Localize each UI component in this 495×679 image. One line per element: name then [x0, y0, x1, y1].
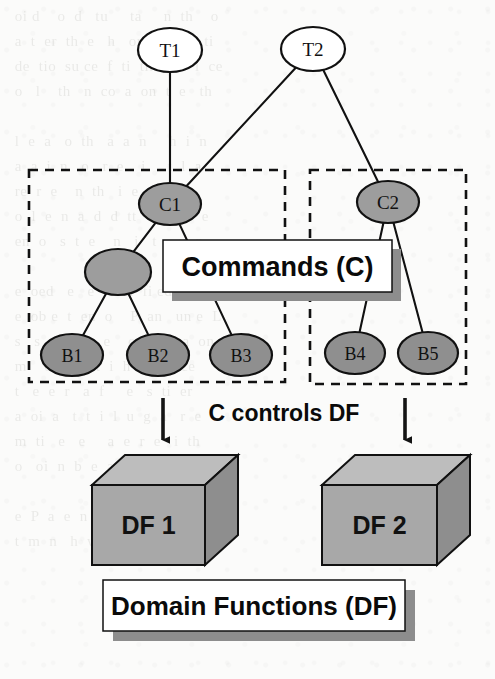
edge-t2-to-c2 — [323, 69, 379, 184]
task-label: T2 — [302, 39, 323, 60]
edge-c1-to-cx — [133, 221, 157, 252]
c-controls-df-label: C controls DF — [209, 400, 360, 426]
node-b1: B1 — [41, 334, 103, 376]
commands-callout: Commands (C) — [163, 240, 401, 301]
diagram-canvas: T1T2C1C2B1B2B3B4B5 Commands (C) C contro… — [0, 0, 495, 679]
cube-label: DF 1 — [121, 511, 175, 539]
cube-label: DF 2 — [352, 511, 406, 539]
command-ellipse — [85, 249, 151, 295]
command-label: C1 — [159, 194, 181, 215]
behaviour-label: B5 — [417, 344, 438, 364]
edge-cx-to-b1 — [82, 292, 107, 337]
behaviour-label: B4 — [344, 344, 365, 364]
node-b3: B3 — [210, 334, 272, 376]
node-b5: B5 — [398, 332, 458, 374]
commands-callout-label: Commands (C) — [181, 252, 373, 282]
behaviour-label: B1 — [61, 346, 82, 366]
node-t2: T2 — [281, 27, 345, 71]
node-t1: T1 — [138, 28, 202, 72]
cube-df1: DF 1 — [92, 455, 238, 565]
command-label: C2 — [377, 192, 399, 213]
behaviour-label: B2 — [147, 346, 168, 366]
node-c2: C2 — [357, 181, 419, 223]
node-b2: B2 — [127, 334, 189, 376]
behaviour-label: B3 — [230, 346, 251, 366]
domain-functions-callout-label: Domain Functions (DF) — [111, 591, 397, 621]
edge-cx-to-b2 — [128, 292, 149, 336]
figure-root: oi d o d tu ta n th o a t er th e h or a… — [0, 0, 495, 679]
node-c1: C1 — [139, 183, 201, 225]
task-label: T1 — [159, 40, 180, 61]
cube-df2: DF 2 — [322, 455, 470, 565]
node-b4: B4 — [325, 332, 385, 374]
node-cx — [85, 249, 151, 295]
domain-functions-callout: Domain Functions (DF) — [103, 580, 415, 641]
